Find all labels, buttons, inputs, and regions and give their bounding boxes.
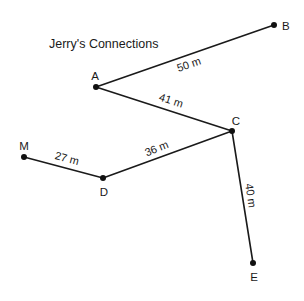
node-e-dot [250, 260, 256, 266]
node-m-dot [21, 154, 27, 160]
node-e-label: E [250, 271, 258, 283]
node-c-dot [229, 128, 235, 134]
edge-d-c [103, 131, 232, 178]
node-a-label: A [91, 70, 99, 82]
connections-diagram: Jerry's Connections 50 m 41 m 40 m 36 m … [0, 0, 304, 301]
node-d-label: D [100, 186, 108, 198]
edge-label-c-e: 40 m [243, 182, 258, 208]
node-b-dot [271, 22, 277, 28]
edge-label-a-c: 41 m [158, 91, 185, 110]
node-c-label: C [232, 115, 240, 127]
node-d-dot [100, 175, 106, 181]
diagram-title: Jerry's Connections [49, 37, 158, 51]
edge-label-m-d: 27 m [54, 149, 81, 167]
node-m-label: M [19, 140, 29, 152]
node-b-label: B [282, 20, 290, 32]
edge-a-b [96, 25, 274, 87]
node-a-dot [93, 84, 99, 90]
